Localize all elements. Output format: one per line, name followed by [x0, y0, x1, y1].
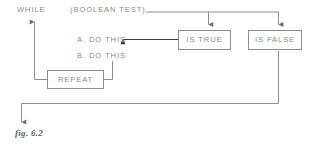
node-is-true-label: IS TRUE [186, 36, 222, 44]
flowchart-figure: WHILE (BOOLEAN TEST) A. DO THIS B. DO TH… [0, 0, 320, 150]
connector-statements-to-repeat [104, 61, 113, 80]
node-is-false: IS FALSE [248, 30, 302, 50]
statement-a-label: A. DO THIS [77, 36, 126, 44]
node-is-false-label: IS FALSE [255, 36, 295, 44]
figure-caption: fig. 6.2 [15, 129, 43, 138]
node-repeat: REPEAT [47, 70, 104, 89]
while-keyword-label: WHILE [17, 6, 46, 14]
node-repeat-label: REPEAT [58, 76, 93, 84]
connector-repeat-to-while [35, 22, 48, 80]
node-is-true: IS TRUE [178, 30, 231, 50]
statement-b-label: B. DO THIS [77, 52, 126, 60]
boolean-test-label: (BOOLEAN TEST) [70, 6, 146, 14]
